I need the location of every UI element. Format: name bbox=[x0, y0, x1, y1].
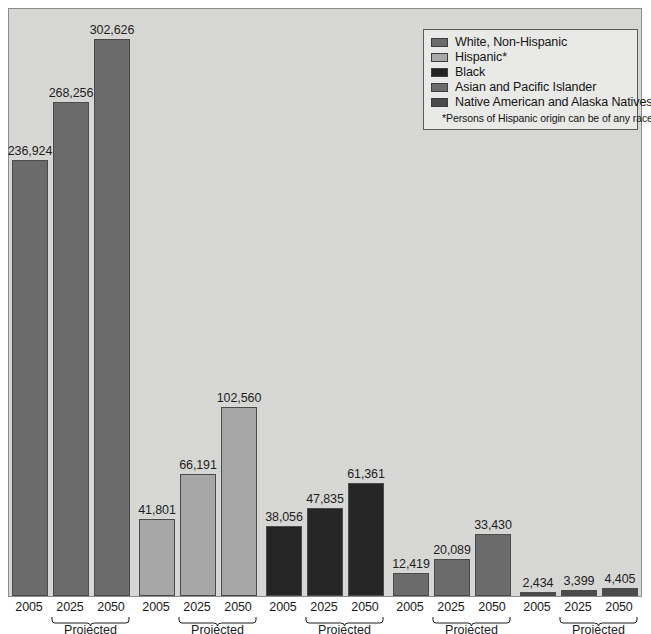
bar-value-label: 33,430 bbox=[474, 518, 512, 532]
x-tick-hispanic-2050: 2050 bbox=[224, 600, 251, 614]
x-tick-hispanic-2005: 2005 bbox=[142, 600, 169, 614]
bar-black-2050: 61,361 bbox=[348, 483, 384, 596]
legend-swatch-icon-asian-pacific-islander bbox=[431, 83, 448, 92]
legend-label-white: White, Non-Hispanic bbox=[455, 35, 567, 49]
bar-hispanic-2005: 41,801 bbox=[139, 519, 175, 596]
bar-value-label: 12,419 bbox=[392, 557, 430, 571]
legend-footnote: *Persons of Hispanic origin can be of an… bbox=[442, 112, 630, 124]
legend-item-asian-pacific-islander: Asian and Pacific Islander bbox=[431, 80, 630, 94]
x-tick-white-2025: 2025 bbox=[56, 600, 83, 614]
bar-asian-pacific-islander-2025: 20,089 bbox=[434, 559, 470, 596]
bar-value-label: 102,560 bbox=[217, 391, 262, 405]
legend-label-hispanic: Hispanic* bbox=[455, 50, 507, 64]
bar-value-label: 47,835 bbox=[306, 492, 344, 506]
x-tick-asian-pacific-islander-2025: 2025 bbox=[437, 600, 464, 614]
bar-white-2025: 268,256 bbox=[53, 102, 89, 596]
x-axis: 200520252050Projected200520252050Project… bbox=[8, 597, 642, 634]
x-tick-black-2025: 2025 bbox=[310, 600, 337, 614]
projected-label-white: Projected bbox=[64, 623, 117, 634]
chart-legend: White, Non-Hispanic Hispanic* Black Asia… bbox=[423, 29, 638, 130]
bar-value-label: 41,801 bbox=[138, 503, 176, 517]
legend-item-white: White, Non-Hispanic bbox=[431, 35, 630, 49]
bar-hispanic-2050: 102,560 bbox=[221, 407, 257, 596]
bar-black-2005: 38,056 bbox=[266, 526, 302, 596]
x-tick-native-american-2005: 2005 bbox=[523, 600, 550, 614]
x-tick-hispanic-2025: 2025 bbox=[183, 600, 210, 614]
x-tick-asian-pacific-islander-2005: 2005 bbox=[396, 600, 423, 614]
bar-hispanic-2025: 66,191 bbox=[180, 474, 216, 596]
legend-swatch-icon-native-american bbox=[431, 98, 448, 107]
bar-value-label: 268,256 bbox=[49, 86, 94, 100]
x-tick-native-american-2025: 2025 bbox=[564, 600, 591, 614]
x-tick-white-2005: 2005 bbox=[15, 600, 42, 614]
x-tick-black-2005: 2005 bbox=[269, 600, 296, 614]
bar-asian-pacific-islander-2050: 33,430 bbox=[475, 534, 511, 596]
x-tick-asian-pacific-islander-2050: 2050 bbox=[478, 600, 505, 614]
bar-value-label: 236,924 bbox=[8, 144, 53, 158]
bar-native-american-2025: 3,399 bbox=[561, 590, 597, 596]
x-tick-native-american-2050: 2050 bbox=[605, 600, 632, 614]
bar-value-label: 38,056 bbox=[265, 510, 303, 524]
bar-white-2005: 236,924 bbox=[12, 160, 48, 596]
legend-item-native-american: Native American and Alaska Natives bbox=[431, 95, 630, 109]
projected-label-black: Projected bbox=[318, 623, 371, 634]
projected-label-hispanic: Projected bbox=[191, 623, 244, 634]
bar-value-label: 3,399 bbox=[564, 574, 595, 588]
legend-swatch-icon-black bbox=[431, 68, 448, 77]
projected-label-native-american: Projected bbox=[572, 623, 625, 634]
bar-value-label: 4,405 bbox=[605, 572, 636, 586]
bar-native-american-2005: 2,434 bbox=[520, 592, 556, 596]
bar-asian-pacific-islander-2005: 12,419 bbox=[393, 573, 429, 596]
bar-value-label: 61,361 bbox=[347, 467, 385, 481]
legend-label-black: Black bbox=[455, 65, 485, 79]
x-tick-black-2050: 2050 bbox=[351, 600, 378, 614]
bar-value-label: 20,089 bbox=[433, 543, 471, 557]
bar-native-american-2050: 4,405 bbox=[602, 588, 638, 596]
population-projection-bar-chart: 236,924268,256302,62641,80166,191102,560… bbox=[0, 0, 651, 634]
legend-label-native-american: Native American and Alaska Natives bbox=[455, 95, 651, 109]
legend-swatch-icon-hispanic bbox=[431, 53, 448, 62]
legend-item-black: Black bbox=[431, 65, 630, 79]
bar-white-2050: 302,626 bbox=[94, 39, 130, 596]
legend-label-asian-pacific-islander: Asian and Pacific Islander bbox=[455, 80, 596, 94]
legend-swatch-icon-white bbox=[431, 38, 448, 47]
x-tick-white-2050: 2050 bbox=[97, 600, 124, 614]
bar-value-label: 2,434 bbox=[523, 576, 554, 590]
bar-black-2025: 47,835 bbox=[307, 508, 343, 596]
bar-value-label: 302,626 bbox=[90, 23, 135, 37]
legend-item-hispanic: Hispanic* bbox=[431, 50, 630, 64]
projected-label-asian-pacific-islander: Projected bbox=[445, 623, 498, 634]
bar-value-label: 66,191 bbox=[179, 458, 217, 472]
